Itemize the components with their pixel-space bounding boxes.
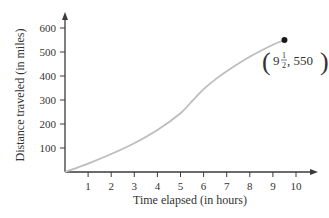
x-tick-label: 10 (291, 180, 303, 192)
highlight-point (281, 37, 287, 43)
x-tick-label: 5 (178, 180, 184, 192)
annotation-denominator: 2 (282, 61, 286, 70)
annotation-open-paren: ( (262, 47, 271, 76)
annotation-close-paren: ) (320, 47, 329, 76)
y-tick-label: 200 (40, 118, 57, 130)
x-tick-label: 7 (224, 180, 230, 192)
y-tick-label: 300 (40, 94, 57, 106)
y-axis-label: Distance traveled (in miles) (13, 29, 27, 162)
point-annotation: ( 9 1 2 , 550 ) (262, 47, 329, 76)
y-tick-label: 600 (40, 22, 57, 34)
x-axis-label: Time elapsed (in hours) (133, 193, 247, 207)
y-tick-label: 500 (40, 46, 57, 58)
y-tick-label: 100 (40, 142, 57, 154)
x-tick-label: 9 (270, 180, 276, 192)
distance-time-chart: 12345678910 100200300400500600 ( 9 1 2 ,… (0, 0, 329, 218)
x-tick-label: 2 (108, 180, 114, 192)
x-axis-arrow-icon (310, 169, 318, 175)
y-tick-label: 400 (40, 70, 57, 82)
x-ticks: 12345678910 (85, 172, 302, 192)
y-ticks: 100200300400500600 (40, 22, 66, 154)
distance-curve (65, 40, 284, 172)
x-tick-label: 8 (247, 180, 253, 192)
annotation-numerator: 1 (282, 51, 286, 60)
y-axis-arrow-icon (62, 12, 68, 20)
x-tick-label: 6 (201, 180, 207, 192)
annotation-whole: 9 (273, 53, 280, 68)
x-tick-label: 4 (155, 180, 161, 192)
axes (62, 12, 318, 175)
annotation-rest: , 550 (287, 53, 313, 68)
x-tick-label: 3 (132, 180, 138, 192)
x-tick-label: 1 (85, 180, 91, 192)
